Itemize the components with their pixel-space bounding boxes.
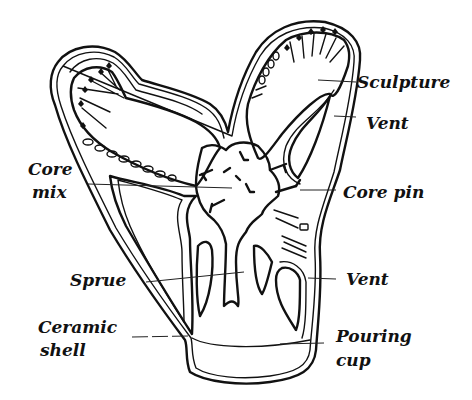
leader-vent-lower xyxy=(308,278,336,279)
label-pouring-cup-line1: Pouring xyxy=(336,327,412,346)
label-ceramic-shell-line1: Ceramic xyxy=(38,318,117,337)
upper-vent xyxy=(284,90,334,184)
label-ceramic-shell-line2: shell xyxy=(40,341,86,360)
sprue-channels xyxy=(110,176,308,338)
label-pouring-cup-line2: cup xyxy=(336,351,371,370)
leader-sprue xyxy=(146,272,244,282)
label-core-mix-line2: mix xyxy=(32,183,67,202)
leader-lines xyxy=(88,80,356,344)
label-vent-lower: Vent xyxy=(346,270,389,289)
leader-sculpture xyxy=(318,80,356,82)
pouring-cup xyxy=(192,338,310,347)
label-core-pin: Core pin xyxy=(343,183,424,202)
sculpture-right-arm xyxy=(247,26,349,159)
leader-ceramic-shell xyxy=(132,336,188,337)
label-sprue: Sprue xyxy=(70,271,126,290)
label-vent-upper: Vent xyxy=(366,114,409,133)
label-sculpture: Sculpture xyxy=(357,73,450,92)
label-core-mix-line1: Core xyxy=(28,160,73,179)
